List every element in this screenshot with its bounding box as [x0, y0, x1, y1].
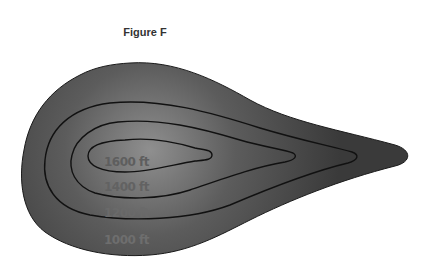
contour-map: 1600 ft 1400 ft 1200 ft 1000 ft — [0, 0, 426, 269]
label-1000: 1000 ft — [104, 233, 150, 247]
contour-1000 — [22, 63, 408, 256]
label-1400: 1400 ft — [104, 180, 150, 194]
label-1200: 1200 ft — [104, 206, 150, 220]
label-1600: 1600 ft — [104, 155, 150, 169]
